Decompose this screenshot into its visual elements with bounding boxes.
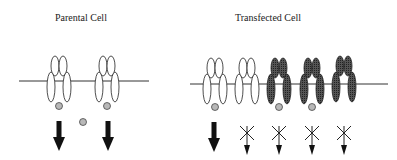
signal-arrow-active: [102, 121, 114, 151]
signal-arrow-blocked: [305, 126, 319, 155]
ligand-bound: [276, 104, 283, 111]
receptor-wild-type: [203, 58, 227, 104]
receptor-wild-type: [47, 56, 71, 102]
signal-arrow-active: [53, 121, 65, 151]
receptor-wild-type: [235, 58, 259, 104]
receptor-mutant: [267, 58, 291, 104]
signal-arrow-blocked: [272, 126, 286, 155]
receptor-mutant: [300, 58, 324, 104]
receptor-mutant: [332, 56, 356, 102]
signal-arrow-blocked: [240, 126, 254, 155]
ligand-bound: [104, 103, 111, 110]
ligand-bound: [212, 104, 219, 111]
ligand-bound: [309, 104, 316, 111]
signal-arrow-blocked: [337, 126, 351, 155]
ligand-bound: [56, 103, 63, 110]
ligand-free: [80, 119, 87, 126]
signal-arrow-active: [208, 122, 220, 152]
receptor-diagram: [0, 0, 397, 160]
receptor-wild-type: [95, 56, 119, 102]
